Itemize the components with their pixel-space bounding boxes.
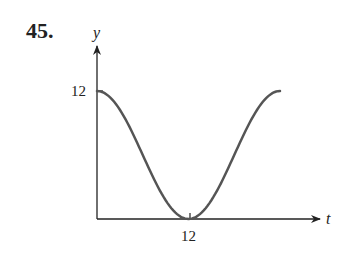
y-tick-label: 12 bbox=[71, 83, 86, 99]
data-curve bbox=[97, 91, 280, 219]
y-axis-label: y bbox=[91, 24, 101, 42]
x-tick-label: 12 bbox=[181, 228, 196, 244]
chart: y t 12 12 bbox=[0, 0, 350, 263]
x-axis-label: t bbox=[326, 210, 331, 227]
